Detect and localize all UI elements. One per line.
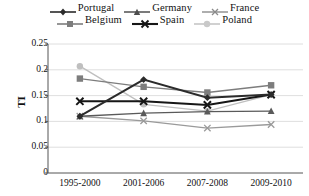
chart-container: Portugal Germany France [0, 0, 309, 196]
data-point-belgium [140, 84, 146, 90]
x-axis-tick-label: 1995-2000 [49, 178, 111, 188]
plot-area: TI 00.050.10.150.20.25 1995-20002001-200… [0, 0, 309, 196]
x-axis-tick-label: 2009-2010 [240, 178, 302, 188]
series-line-germany [80, 111, 271, 116]
series-line-france [80, 116, 271, 128]
plot-svg [0, 0, 309, 196]
x-axis-tick-label: 2007-2008 [176, 178, 238, 188]
x-axis-tick-label: 2001-2006 [113, 178, 175, 188]
data-point-belgium [268, 82, 274, 88]
data-point-poland [77, 63, 83, 69]
series-line-belgium [80, 79, 271, 93]
data-point-belgium [77, 75, 83, 81]
